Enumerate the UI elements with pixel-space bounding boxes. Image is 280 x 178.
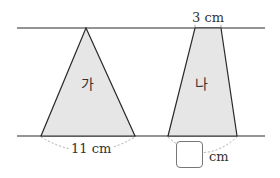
triangle-label: 가 (81, 77, 94, 91)
trapezoid-label: 나 (195, 77, 208, 91)
trapezoid-top-label: 3 cm (191, 11, 225, 24)
diagram-canvas (0, 0, 280, 178)
triangle-base-label: 11 cm (70, 142, 112, 155)
answer-box[interactable] (176, 141, 203, 168)
answer-unit: cm (209, 150, 229, 163)
